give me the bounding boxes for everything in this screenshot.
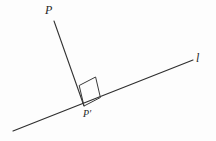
- diagram-canvas: [0, 0, 216, 141]
- segment-p-to-p-prime: [54, 21, 84, 106]
- line-label-l: l: [196, 52, 199, 64]
- line-l: [13, 60, 193, 131]
- point-label-p-prime: P′: [83, 109, 91, 119]
- point-label-p: P: [45, 4, 52, 16]
- geometry-figure: P P′ l: [0, 0, 216, 141]
